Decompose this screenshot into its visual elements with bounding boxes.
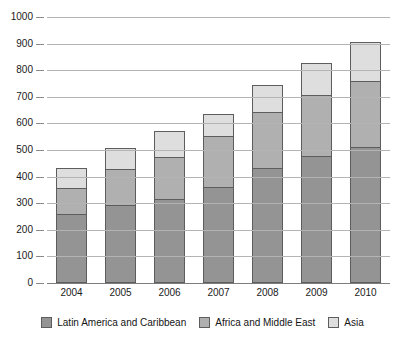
legend-swatch-icon: [328, 317, 339, 328]
y-tick-label: 900: [16, 39, 33, 49]
y-tick-mark: [36, 70, 44, 71]
y-tick-mark: [36, 230, 44, 231]
y-tick-mark: [36, 256, 44, 257]
grid-line: [47, 230, 390, 231]
y-tick-mark: [36, 283, 44, 284]
y-tick-mark: [36, 17, 44, 18]
legend-item[interactable]: Africa and Middle East: [199, 317, 315, 328]
grid-line: [47, 17, 390, 18]
bar-segment[interactable]: [301, 156, 332, 283]
bar-segment[interactable]: [154, 131, 185, 158]
bar-segment[interactable]: [350, 81, 381, 149]
legend-label: Asia: [344, 317, 363, 328]
y-tick-mark: [36, 123, 44, 124]
bar-segment[interactable]: [301, 95, 332, 157]
bar-segment[interactable]: [203, 136, 234, 188]
x-tick-label: 2009: [292, 287, 341, 299]
legend-item[interactable]: Latin America and Caribbean: [41, 317, 186, 328]
grid-line: [47, 44, 390, 45]
x-tick-label: 2010: [341, 287, 390, 299]
y-tick-label: 100: [16, 251, 33, 261]
x-axis: 2004200520062007200820092010: [47, 287, 390, 301]
grid-line: [47, 150, 390, 151]
bar-segment[interactable]: [252, 85, 283, 113]
bar-segment[interactable]: [56, 168, 87, 189]
chart-legend: Latin America and CaribbeanAfrica and Mi…: [0, 311, 405, 333]
x-tick-label: 2007: [194, 287, 243, 299]
y-tick-mark: [36, 44, 44, 45]
bar-segment[interactable]: [350, 147, 381, 283]
bar-segment[interactable]: [203, 114, 234, 137]
legend-label: Latin America and Caribbean: [57, 317, 186, 328]
bar-segment[interactable]: [105, 148, 136, 170]
y-tick-label: 400: [16, 172, 33, 182]
y-tick-mark: [36, 177, 44, 178]
y-tick-label: 0: [27, 278, 33, 288]
bar-segment[interactable]: [56, 214, 87, 283]
grid-line: [47, 177, 390, 178]
x-tick-label: 2004: [47, 287, 96, 299]
grid-line: [47, 203, 390, 204]
y-axis: 01002003004005006007008009001000: [0, 17, 33, 283]
grid-line: [47, 256, 390, 257]
y-tick-mark: [36, 203, 44, 204]
grid-line: [47, 283, 390, 284]
grid-line: [47, 123, 390, 124]
legend-label: Africa and Middle East: [215, 317, 315, 328]
bar-segment[interactable]: [252, 112, 283, 169]
y-tick-mark: [36, 97, 44, 98]
legend-swatch-icon: [41, 317, 52, 328]
y-tick-label: 300: [16, 198, 33, 208]
bar-segment[interactable]: [301, 63, 332, 96]
bar-segment[interactable]: [154, 157, 185, 200]
y-tick-label: 800: [16, 65, 33, 75]
y-tick-label: 200: [16, 225, 33, 235]
y-tick-label: 600: [16, 118, 33, 128]
x-tick-label: 2005: [96, 287, 145, 299]
bar-segment[interactable]: [154, 199, 185, 283]
legend-swatch-icon: [199, 317, 210, 328]
bar-segment[interactable]: [203, 187, 234, 283]
y-tick-label: 500: [16, 145, 33, 155]
y-tick-mark: [36, 150, 44, 151]
y-tick-label: 1000: [11, 12, 33, 22]
plot-area: [47, 17, 390, 283]
legend-item[interactable]: Asia: [328, 317, 363, 328]
stacked-bar-chart: 01002003004005006007008009001000 2004200…: [0, 0, 405, 344]
x-tick-label: 2006: [145, 287, 194, 299]
bar-segment[interactable]: [105, 205, 136, 283]
bar-segment[interactable]: [350, 42, 381, 82]
bar-segment[interactable]: [105, 169, 136, 206]
x-tick-label: 2008: [243, 287, 292, 299]
bar-segment[interactable]: [252, 168, 283, 283]
bar-segment[interactable]: [56, 188, 87, 216]
grid-line: [47, 70, 390, 71]
y-tick-label: 700: [16, 92, 33, 102]
grid-line: [47, 97, 390, 98]
